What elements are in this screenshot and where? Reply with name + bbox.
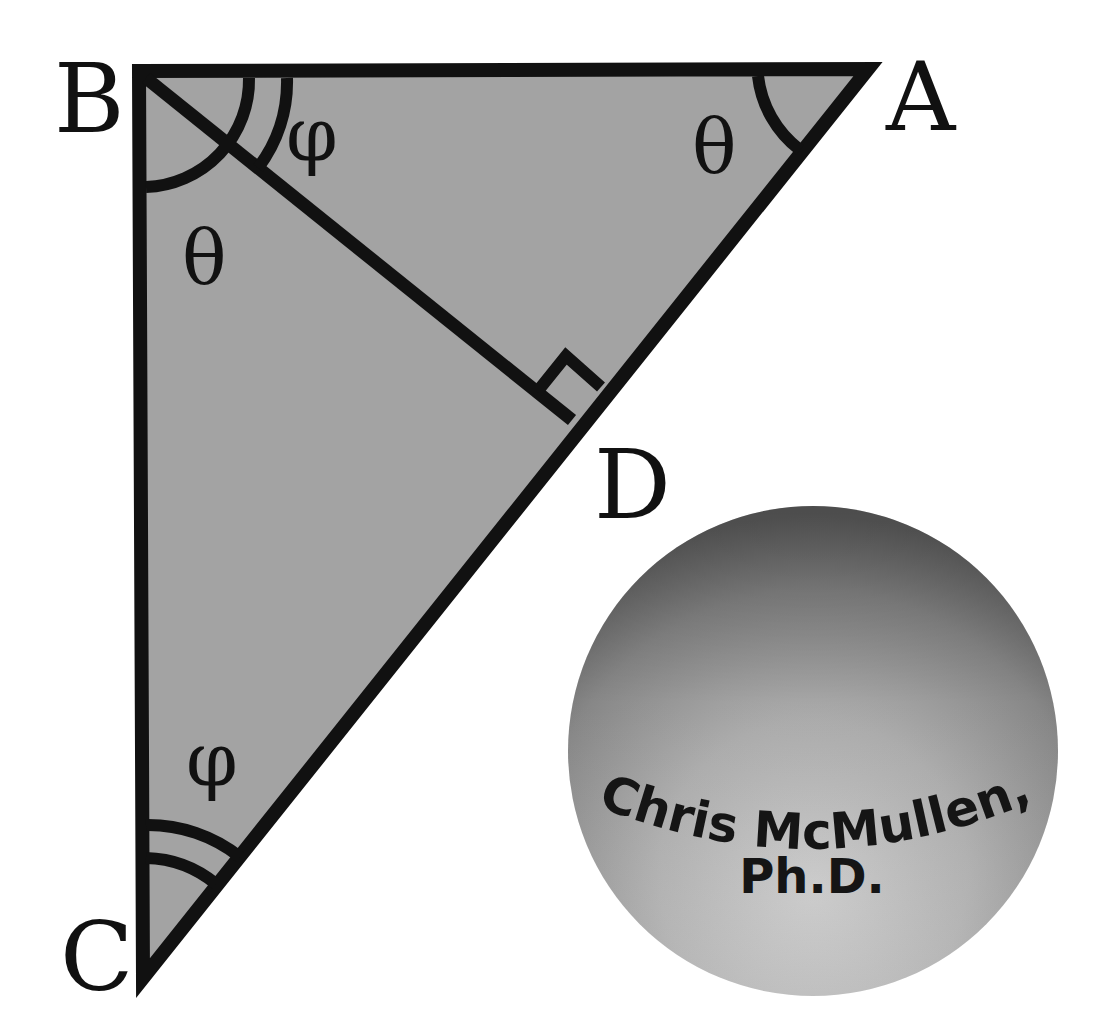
- angle-label-theta-b: θ: [182, 214, 227, 300]
- sphere-shading: [568, 506, 1058, 996]
- vertex-label-a: A: [885, 41, 957, 153]
- vertex-label-b: B: [54, 43, 125, 155]
- logo-line-2: Ph.D.: [739, 848, 885, 904]
- angle-label-phi-c: φ: [186, 716, 238, 802]
- geometry-diagram: B A C D φ θ θ φ Chris McMullen, Ph.D.: [0, 0, 1111, 1034]
- author-logo-sphere: Chris McMullen, Ph.D.: [568, 506, 1058, 996]
- angle-label-phi-b: φ: [286, 91, 338, 177]
- vertex-label-d: D: [594, 429, 671, 541]
- vertex-label-c: C: [60, 901, 133, 1013]
- angle-label-theta-a: θ: [692, 103, 737, 189]
